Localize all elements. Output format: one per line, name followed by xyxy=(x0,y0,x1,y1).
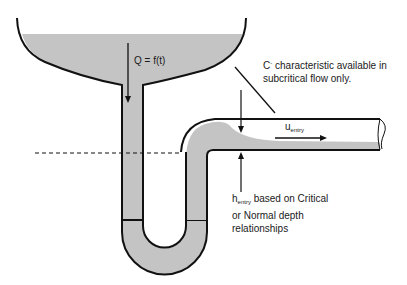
depth-line-2: or Normal depth xyxy=(232,209,328,222)
characteristic-line-2: subcritical flow only. xyxy=(263,72,387,85)
depth-note: hentry based on Critical or Normal depth… xyxy=(232,192,328,235)
h-subscript: entry xyxy=(238,199,251,205)
u-bend-water xyxy=(122,220,207,275)
depth-line-1: hentry based on Critical xyxy=(232,192,328,209)
depth-text-1: based on Critical xyxy=(251,193,328,204)
characteristic-line-1: C- characteristic available in xyxy=(263,57,387,72)
u-subscript: entry xyxy=(291,127,304,133)
diagram-canvas xyxy=(0,0,407,285)
characteristic-note: C- characteristic available in subcritic… xyxy=(263,57,387,85)
depth-line-3: relationships xyxy=(232,222,328,235)
velocity-label: uentry xyxy=(285,121,304,133)
depth-arrow-bottom-head xyxy=(238,152,244,159)
characteristic-text-1: characteristic available in xyxy=(272,60,387,71)
flow-label: Q = f(t) xyxy=(134,55,165,66)
velocity-arrow-head xyxy=(320,135,327,141)
depth-arrow-top-head xyxy=(238,126,244,133)
flow-label-text: Q = f(t) xyxy=(134,55,165,66)
pipe-break-end xyxy=(378,119,385,150)
